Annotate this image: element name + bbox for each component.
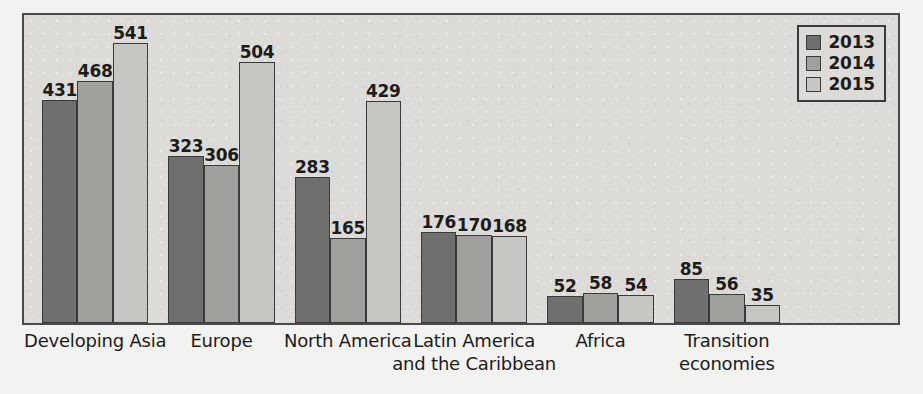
bar-2014-3[interactable]: 170 [456, 235, 491, 323]
bar-group: 525854 [547, 15, 653, 323]
bar-2013-2[interactable]: 283 [295, 177, 330, 323]
bar-value-label: 323 [169, 138, 204, 155]
bar-group: 176170168 [421, 15, 527, 323]
bar-value-label: 468 [78, 63, 113, 80]
plot-area: 4314685413233065042831654291761701685258… [22, 13, 900, 325]
bar-2013-0[interactable]: 431 [42, 100, 77, 323]
legend-label: 2014 [828, 55, 875, 72]
category-label-line: and the Caribbean [374, 352, 574, 375]
bar-2015-1[interactable]: 504 [239, 62, 274, 323]
legend-swatch-icon [806, 77, 821, 92]
category-label-line: Transition [627, 329, 827, 352]
bar-2014-5[interactable]: 56 [709, 294, 744, 323]
bar-2013-5[interactable]: 85 [674, 279, 709, 323]
bar-2015-4[interactable]: 54 [618, 295, 653, 323]
bar-value-label: 52 [554, 278, 577, 295]
bar-value-label: 176 [421, 214, 456, 231]
category-label-line: economies [627, 352, 827, 375]
bar-group: 283165429 [295, 15, 401, 323]
bar-value-label: 306 [204, 147, 239, 164]
bar-value-label: 58 [589, 275, 612, 292]
bar-value-label: 54 [624, 277, 647, 294]
chart-legend: 201320142015 [797, 25, 886, 102]
legend-swatch-icon [806, 35, 821, 50]
bar-value-label: 429 [366, 83, 401, 100]
category-axis: Developing AsiaEuropeNorth AmericaLatin … [22, 329, 900, 391]
legend-label: 2013 [828, 34, 875, 51]
bar-2015-5[interactable]: 35 [745, 305, 780, 323]
legend-label: 2015 [828, 76, 875, 93]
category-label-5: Transitioneconomies [627, 329, 827, 375]
bar-2015-2[interactable]: 429 [366, 101, 401, 323]
bar-value-label: 35 [751, 287, 774, 304]
legend-item-2013[interactable]: 2013 [806, 32, 875, 53]
bar-group: 323306504 [168, 15, 274, 323]
bar-value-label: 541 [113, 25, 148, 42]
bar-2014-1[interactable]: 306 [204, 165, 239, 323]
bar-group: 431468541 [42, 15, 148, 323]
bar-value-label: 56 [715, 276, 738, 293]
legend-swatch-icon [806, 56, 821, 71]
bar-2013-3[interactable]: 176 [421, 232, 456, 323]
bar-value-label: 283 [295, 159, 330, 176]
bar-value-label: 168 [492, 218, 527, 235]
bar-value-label: 504 [240, 44, 275, 61]
legend-item-2014[interactable]: 2014 [806, 53, 875, 74]
bar-value-label: 165 [331, 220, 366, 237]
bar-2013-1[interactable]: 323 [168, 156, 203, 323]
legend-item-2015[interactable]: 2015 [806, 74, 875, 95]
bar-2013-4[interactable]: 52 [547, 296, 582, 323]
bar-2014-2[interactable]: 165 [330, 238, 365, 323]
bar-2015-0[interactable]: 541 [113, 43, 148, 323]
bar-group: 855635 [674, 15, 780, 323]
bar-value-label: 170 [457, 217, 492, 234]
bar-2014-4[interactable]: 58 [583, 293, 618, 323]
bar-2015-3[interactable]: 168 [492, 236, 527, 323]
bar-chart-figure: 4314685413233065042831654291761701685258… [0, 0, 923, 394]
bar-2014-0[interactable]: 468 [77, 81, 112, 323]
bar-value-label: 431 [42, 82, 77, 99]
bar-value-label: 85 [680, 261, 703, 278]
